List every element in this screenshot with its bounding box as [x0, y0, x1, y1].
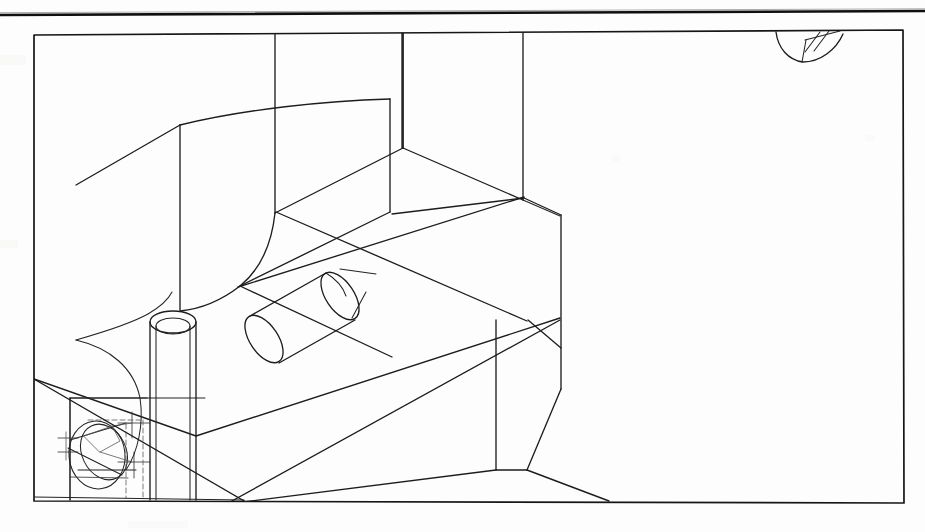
- paper-background: [0, 0, 925, 532]
- technical-drawing-canvas: [0, 0, 925, 532]
- drawing-sheet: [0, 0, 925, 532]
